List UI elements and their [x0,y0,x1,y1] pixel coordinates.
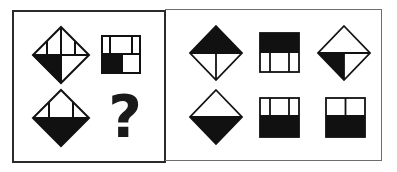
question-figure-2-square [101,35,141,74]
option-5-square[interactable] [259,97,300,138]
question-figure-1-diamond [32,26,90,84]
question-figure-3-diamond [32,89,90,147]
question-mark: ? [108,86,142,148]
option-2-square[interactable] [259,32,300,73]
option-4-diamond[interactable] [189,89,243,145]
option-3-diamond[interactable] [317,25,371,81]
option-6-square[interactable] [325,97,366,138]
option-1-diamond[interactable] [189,25,243,81]
